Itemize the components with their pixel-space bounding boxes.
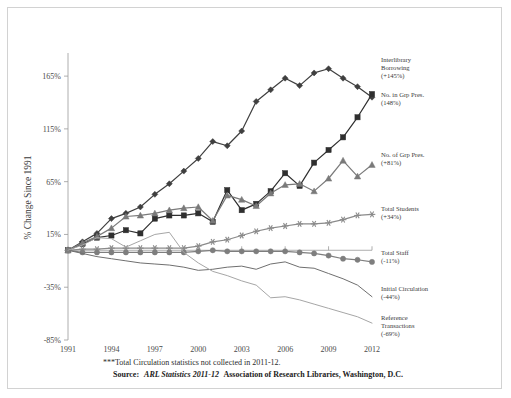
- data-point-marker: [340, 135, 345, 140]
- footnote-text: ***Total Circulation statistics not coll…: [103, 358, 281, 367]
- data-point-marker: [94, 250, 99, 255]
- series-label-delta: (+145%): [381, 72, 405, 80]
- source-text: Source: ARL Statistics 2011-12 Associati…: [113, 370, 403, 379]
- data-point-marker: [369, 91, 374, 96]
- x-tick-label: 2009: [321, 345, 337, 354]
- data-point-marker: [326, 66, 332, 72]
- data-point-marker: [181, 213, 186, 218]
- y-tick-label: 165%: [42, 72, 61, 81]
- x-tick-label: 2000: [190, 345, 206, 354]
- x-tick-label: 1991: [60, 345, 76, 354]
- data-point-marker: [123, 250, 128, 255]
- x-tick-label: 1997: [147, 345, 163, 354]
- series-labels: InterlibraryBorrowing(+145%)No. in Grp P…: [381, 56, 429, 338]
- series-label-name: Borrowing: [381, 64, 410, 71]
- series-lines: [65, 66, 376, 323]
- series-label-interlibrary-borrowing: InterlibraryBorrowing(+145%): [381, 56, 412, 80]
- data-point-marker: [225, 249, 230, 254]
- y-tick-label: 115%: [43, 125, 62, 134]
- data-point-marker: [152, 216, 157, 221]
- series-label-delta: (148%): [381, 99, 401, 107]
- series-label-no-in-grp-pres: No. in Grp Pres.(148%): [381, 91, 424, 107]
- series-label-no-of-grp-pres: No. of Grp Pres.(+81%): [381, 151, 425, 167]
- series-label-initial-circulation: Initial Circulation(-44%): [381, 285, 429, 301]
- data-point-marker: [167, 213, 172, 218]
- series-label-reference-transactions: ReferenceTransactions(-69%): [381, 314, 415, 338]
- data-point-marker: [196, 249, 201, 254]
- data-point-marker: [326, 147, 331, 152]
- data-point-marker: [109, 233, 114, 238]
- data-point-marker: [283, 249, 288, 254]
- y-tick-label: -35%: [44, 283, 62, 292]
- series-label-name: Total Staff: [381, 249, 410, 256]
- y-tick-label: -85%: [44, 336, 62, 345]
- y-tick-label: 15%: [46, 230, 61, 239]
- data-point-marker: [369, 162, 375, 168]
- axes: 165%115%65%15%-35%-85%199119941997200020…: [23, 53, 380, 354]
- data-point-marker: [268, 249, 273, 254]
- annotations: ***Total Circulation statistics not coll…: [103, 358, 403, 379]
- source-italic: ARL Statistics 2011-12: [143, 370, 219, 379]
- x-tick-label: 2012: [364, 345, 380, 354]
- data-point-marker: [210, 248, 215, 253]
- series-label-name: Interlibrary: [381, 56, 412, 63]
- source-prefix: Source:: [113, 370, 139, 379]
- series-label-delta: (-69%): [381, 330, 400, 338]
- series-label-delta: (+81%): [381, 159, 401, 167]
- data-point-marker: [138, 231, 143, 236]
- series-label-total-students: Total Students(+34%): [381, 205, 419, 221]
- data-point-marker: [297, 250, 302, 255]
- series-label-name: Reference: [381, 314, 408, 321]
- series-label-name: Initial Circulation: [381, 285, 429, 292]
- x-tick-label: 1994: [103, 345, 119, 354]
- data-point-marker: [196, 211, 201, 216]
- data-point-marker: [340, 157, 346, 163]
- data-point-marker: [239, 208, 244, 213]
- data-point-marker: [283, 171, 288, 176]
- series-line: [68, 232, 372, 323]
- data-point-marker: [138, 250, 143, 255]
- x-tick-label: 2006: [277, 345, 293, 354]
- series-label-name: No. of Grp Pres.: [381, 151, 425, 158]
- data-point-marker: [355, 115, 360, 120]
- data-point-marker: [340, 75, 346, 81]
- data-point-marker: [152, 250, 157, 255]
- series-label-total-staff: Total Staff(-11%): [381, 249, 410, 265]
- x-tick-label: 2003: [234, 345, 250, 354]
- series-label-delta: (-11%): [381, 257, 399, 265]
- series-label-name: Transactions: [381, 322, 415, 329]
- data-point-marker: [326, 253, 331, 258]
- series-label-delta: (+34%): [381, 213, 401, 221]
- series-label-delta: (-44%): [381, 293, 400, 301]
- data-point-marker: [167, 250, 172, 255]
- data-point-marker: [369, 259, 374, 264]
- data-point-marker: [109, 250, 114, 255]
- data-point-marker: [123, 228, 128, 233]
- source-suffix: Association of Research Libraries, Washi…: [223, 370, 403, 379]
- y-tick-label: 65%: [46, 178, 61, 187]
- data-point-marker: [311, 160, 316, 165]
- data-point-marker: [355, 257, 360, 262]
- data-point-marker: [311, 251, 316, 256]
- data-point-marker: [254, 249, 259, 254]
- y-axis-title: % Change Since 1991: [23, 155, 33, 239]
- line-chart: 165%115%65%15%-35%-85%199119941997200020…: [0, 0, 511, 398]
- series-label-name: No. in Grp Pres.: [381, 91, 424, 98]
- data-point-marker: [239, 249, 244, 254]
- chart-page: 165%115%65%15%-35%-85%199119941997200020…: [0, 0, 511, 398]
- series-reference-transactions: [68, 232, 372, 323]
- series-label-name: Total Students: [381, 205, 419, 212]
- data-point-marker: [340, 256, 345, 261]
